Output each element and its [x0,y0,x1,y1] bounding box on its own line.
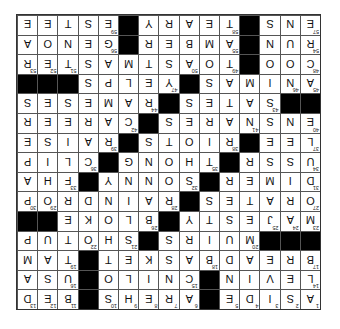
grid-cell[interactable]: E [219,191,239,211]
grid-cell[interactable]: 16U [57,270,77,290]
grid-cell[interactable]: M [199,35,219,55]
grid-cell[interactable]: 47Y [158,74,178,94]
grid-cell[interactable]: S [259,113,279,133]
grid-cell[interactable]: O [158,172,178,192]
grid-cell[interactable]: 27O [300,191,320,211]
grid-cell[interactable]: N [138,172,158,192]
grid-cell[interactable]: A [138,191,158,211]
grid-cell[interactable]: 46N [280,74,300,94]
grid-cell[interactable]: 31D [300,172,320,192]
grid-cell[interactable]: I [259,74,279,94]
grid-cell[interactable]: 41N [239,113,259,133]
grid-cell[interactable]: N [280,113,300,133]
grid-cell[interactable]: A [179,15,199,35]
grid-cell[interactable]: 50A [179,54,199,74]
grid-cell[interactable]: S [259,152,279,172]
grid-cell[interactable]: T [199,211,219,231]
grid-cell[interactable]: 3I [259,289,279,309]
grid-cell[interactable]: 9H [118,289,138,309]
grid-cell[interactable]: E [199,93,219,113]
grid-cell[interactable]: S [158,54,178,74]
grid-cell[interactable]: R [280,250,300,270]
grid-cell[interactable]: E [280,133,300,153]
grid-cell[interactable]: 20M [239,231,259,251]
grid-cell[interactable]: T [239,191,259,211]
grid-cell[interactable]: U [37,231,57,251]
grid-cell[interactable]: 17B [300,250,320,270]
grid-cell[interactable]: N [98,191,118,211]
grid-cell[interactable]: 58T [219,15,239,35]
grid-cell[interactable]: R [239,152,259,172]
grid-cell[interactable]: E [37,15,57,35]
grid-cell[interactable]: 13D [17,289,37,309]
grid-cell[interactable]: A [219,113,239,133]
grid-cell[interactable]: 4D [239,289,259,309]
grid-cell[interactable]: Y [138,15,158,35]
grid-cell[interactable]: 5E [219,289,239,309]
grid-cell[interactable]: S [199,74,219,94]
grid-cell[interactable]: P [98,74,118,94]
grid-cell[interactable]: N [280,15,300,35]
grid-cell[interactable]: 18B [199,250,219,270]
grid-cell[interactable]: 14L [300,270,320,290]
grid-cell[interactable]: 30P [17,191,37,211]
grid-cell[interactable]: 25J [259,211,279,231]
grid-cell[interactable]: T [158,133,178,153]
grid-cell[interactable]: R [179,231,199,251]
grid-cell[interactable]: O [98,270,118,290]
grid-cell[interactable]: M [118,54,138,74]
grid-cell[interactable]: 6A [179,289,199,309]
grid-cell[interactable]: 38R [219,133,239,153]
grid-cell[interactable]: I [118,191,138,211]
grid-cell[interactable]: L [57,152,77,172]
grid-cell[interactable]: A [219,74,239,94]
grid-cell[interactable]: I [57,133,77,153]
grid-cell[interactable]: A [17,172,37,192]
grid-cell[interactable]: 10S [98,289,118,309]
grid-cell[interactable]: N [219,270,239,290]
grid-cell[interactable]: I [199,133,219,153]
grid-cell[interactable]: S [259,15,279,35]
grid-cell[interactable]: S [179,93,199,113]
grid-cell[interactable]: P [17,231,37,251]
grid-cell[interactable]: N [138,152,158,172]
grid-cell[interactable]: 23M [300,211,320,231]
grid-cell[interactable]: M [239,74,259,94]
grid-cell[interactable]: A [259,191,279,211]
grid-cell[interactable]: 35T [199,152,219,172]
grid-cell[interactable]: S [199,191,219,211]
grid-cell[interactable]: S [158,250,178,270]
grid-cell[interactable]: L [118,74,138,94]
grid-cell[interactable]: O [98,211,118,231]
grid-cell[interactable]: H [179,152,199,172]
grid-cell[interactable]: P [17,152,37,172]
grid-cell[interactable]: 42C [118,113,138,133]
grid-cell[interactable]: D [219,250,239,270]
grid-cell[interactable]: O [158,152,178,172]
grid-cell[interactable]: M [98,93,118,113]
grid-cell[interactable]: 24A [280,211,300,231]
grid-cell[interactable]: 7R [158,289,178,309]
grid-cell[interactable]: A [239,250,259,270]
grid-cell[interactable]: E [17,15,37,35]
grid-cell[interactable]: N [118,172,138,192]
grid-cell[interactable]: 56G [98,35,118,55]
grid-cell[interactable]: M [17,250,37,270]
grid-cell[interactable]: 19T [57,250,77,270]
grid-cell[interactable]: Y [179,211,199,231]
grid-cell[interactable]: 43S [259,93,279,113]
grid-cell[interactable]: E [138,74,158,94]
grid-cell[interactable]: S [78,15,98,35]
grid-cell[interactable]: 26B [138,211,158,231]
grid-cell[interactable]: T [57,231,77,251]
grid-cell[interactable]: 8E [138,289,158,309]
grid-cell[interactable]: 59E [98,15,118,35]
grid-cell[interactable]: 44R [138,93,158,113]
grid-cell[interactable]: S [37,270,57,290]
grid-cell[interactable]: B [179,35,199,55]
grid-cell[interactable]: H [98,231,118,251]
grid-cell[interactable]: S [158,113,178,133]
grid-cell[interactable]: E [239,172,259,192]
grid-cell[interactable]: 53R [17,54,37,74]
grid-cell[interactable]: A [179,250,199,270]
